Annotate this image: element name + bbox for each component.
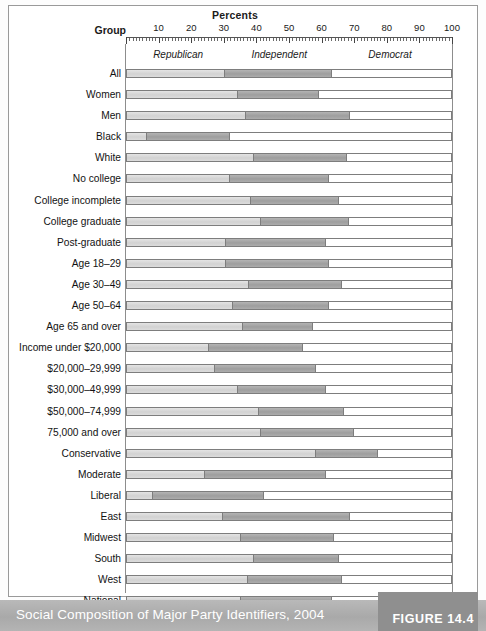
bar-segment-republican — [127, 281, 249, 288]
bar-segment-republican — [127, 91, 238, 98]
ruler-tick — [445, 38, 446, 41]
bar-segment-democrat — [303, 344, 452, 351]
bar-segment-republican — [127, 429, 261, 436]
ruler-tick — [371, 38, 372, 41]
figure-number-label: FIGURE 14.4 — [378, 612, 474, 626]
stacked-bar — [126, 69, 452, 78]
bar-row: Midwest — [0, 530, 470, 551]
row-label-10: Age 30–49 — [0, 279, 121, 290]
ruler-tick — [439, 38, 440, 41]
bar-row: West — [0, 572, 470, 593]
stacked-bar — [126, 301, 452, 310]
ruler-tick — [397, 38, 398, 41]
ruler-tick — [168, 38, 169, 41]
bar-row: Men — [0, 108, 470, 129]
ruler-tick — [266, 38, 267, 41]
ruler-tick — [214, 38, 215, 41]
bar-segment-republican — [127, 154, 254, 161]
ruler-tick — [204, 38, 205, 41]
bar-segment-independent — [254, 555, 339, 562]
ruler-tick — [178, 38, 179, 41]
ruler-tick — [201, 38, 202, 41]
ruler-tick — [260, 38, 261, 41]
row-label-0: All — [0, 68, 121, 79]
ruler-tick — [302, 38, 303, 41]
figure-number-tab: FIGURE 14.4 — [378, 592, 478, 631]
bar-segment-republican — [127, 260, 226, 267]
ruler-tick — [159, 38, 160, 43]
ruler-tick — [348, 38, 349, 41]
stacked-bar — [126, 111, 452, 120]
bar-segment-republican — [127, 492, 153, 499]
stacked-bar — [126, 575, 452, 584]
ruler-tick — [139, 38, 140, 41]
bar-segment-republican — [127, 218, 261, 225]
stacked-bar — [126, 385, 452, 394]
legend-label-independent: Independent — [251, 49, 307, 60]
row-label-19: Moderate — [0, 469, 121, 480]
bar-row: Women — [0, 87, 470, 108]
ruler-tick — [175, 38, 176, 41]
ruler-tick — [162, 38, 163, 41]
bar-segment-democrat — [329, 302, 452, 309]
ruler-tick — [416, 38, 417, 41]
ruler-tick — [152, 38, 153, 41]
stacked-bar — [126, 217, 452, 226]
bar-segment-democrat — [344, 408, 452, 415]
bar-segment-republican — [127, 133, 147, 140]
bar-segment-democrat — [378, 450, 452, 457]
ruler-tick — [374, 38, 375, 41]
bar-segment-republican — [127, 576, 248, 583]
bar-row: Moderate — [0, 467, 470, 488]
stacked-bar — [126, 364, 452, 373]
bar-segment-republican — [127, 323, 243, 330]
bar-segment-independent — [209, 344, 304, 351]
row-label-16: $50,000–74,999 — [0, 406, 121, 417]
ruler-tick — [331, 38, 332, 41]
ruler-tick — [250, 38, 251, 41]
ruler-tick — [181, 38, 182, 41]
bar-segment-republican — [127, 70, 225, 77]
stacked-bar — [126, 280, 452, 289]
x-tick-label-80: 80 — [382, 22, 393, 33]
stacked-bar — [126, 153, 452, 162]
ruler-tick — [377, 38, 378, 41]
ruler-tick — [129, 38, 130, 41]
ruler-tick — [403, 38, 404, 41]
ruler-tick — [276, 38, 277, 41]
ruler-tick — [426, 38, 427, 41]
row-label-11: Age 50–64 — [0, 300, 121, 311]
ruler-tick — [432, 38, 433, 41]
bar-segment-democrat — [354, 429, 452, 436]
ruler-tick — [142, 38, 143, 41]
bar-segment-independent — [223, 513, 350, 520]
bar-segment-republican — [127, 450, 316, 457]
ruler-tick — [351, 38, 352, 41]
bar-row: Age 18–29 — [0, 256, 470, 277]
stacked-bar — [126, 428, 452, 437]
stacked-bar — [126, 196, 452, 205]
bar-segment-democrat — [313, 323, 452, 330]
bar-segment-independent — [226, 260, 329, 267]
ruler-tick — [172, 38, 173, 41]
bar-segment-democrat — [347, 154, 452, 161]
bar-segment-independent — [153, 492, 264, 499]
ruler-tick — [240, 38, 241, 41]
stacked-bar — [126, 343, 452, 352]
ruler-tick — [237, 38, 238, 41]
bar-row: Conservative — [0, 446, 470, 467]
ruler-tick — [338, 38, 339, 41]
ruler-tick — [309, 38, 310, 41]
ruler-tick — [191, 38, 192, 43]
ruler-tick — [413, 38, 414, 41]
row-label-5: No college — [0, 173, 121, 184]
ruler-tick — [305, 38, 306, 41]
axis-title-percents: Percents — [0, 9, 470, 21]
x-axis-ruler — [126, 37, 452, 44]
stacked-bar — [126, 90, 452, 99]
bar-segment-republican — [127, 534, 241, 541]
x-tick-label-10: 10 — [153, 22, 164, 33]
ruler-tick — [217, 38, 218, 41]
ruler-tick — [367, 38, 368, 41]
x-tick-label-30: 30 — [219, 22, 230, 33]
